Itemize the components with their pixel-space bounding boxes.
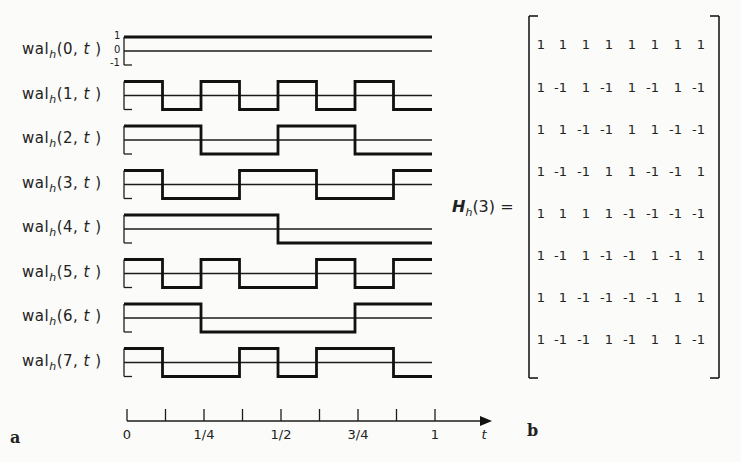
matrix-cell: 1	[658, 37, 682, 52]
matrix-cell: 1	[589, 206, 613, 221]
matrix-cell: -1	[635, 290, 659, 305]
matrix-cell: -1	[681, 206, 705, 221]
matrix-cell: 1	[681, 248, 705, 263]
matrix-cell: -1	[543, 80, 567, 95]
matrix-cell: 1	[521, 164, 545, 179]
matrix-cell: 1	[566, 37, 590, 52]
matrix-cell: 1	[521, 37, 545, 52]
matrix-cell: 1	[635, 122, 659, 137]
matrix-cell: -1	[566, 122, 590, 137]
matrix-cell: -1	[658, 206, 682, 221]
matrix-cell: 1	[589, 164, 613, 179]
matrix-cell: 1	[521, 248, 545, 263]
matrix-cell: -1	[543, 332, 567, 347]
matrix-cell: 1	[543, 122, 567, 137]
matrix-cell: -1	[589, 290, 613, 305]
matrix-cell: -1	[635, 164, 659, 179]
matrix-cell: -1	[635, 80, 659, 95]
matrix-cell: 1	[521, 206, 545, 221]
panel-label-a: a	[10, 428, 20, 447]
matrix-cell: -1	[589, 248, 613, 263]
matrix-cell: 1	[681, 37, 705, 52]
matrix-cell: -1	[658, 164, 682, 179]
matrix-cell: -1	[612, 248, 636, 263]
matrix-cell: -1	[612, 206, 636, 221]
panel-label-b: b	[527, 421, 538, 440]
matrix-cell: -1	[681, 80, 705, 95]
matrix-cell: 1	[521, 332, 545, 347]
time-tick-label: 1/2	[271, 427, 292, 442]
matrix-cell: 1	[612, 80, 636, 95]
matrix-cell: -1	[681, 332, 705, 347]
matrix-cell: 1	[543, 290, 567, 305]
matrix-cell: 1	[612, 122, 636, 137]
matrix-cell: 1	[543, 206, 567, 221]
matrix-cell: 1	[681, 290, 705, 305]
matrix-cell: 1	[566, 80, 590, 95]
matrix-cell: -1	[612, 332, 636, 347]
matrix-cell: -1	[635, 206, 659, 221]
matrix-cell: 1	[521, 122, 545, 137]
matrix-cell: -1	[543, 164, 567, 179]
matrix-cell: 1	[521, 80, 545, 95]
matrix-cell: 1	[612, 164, 636, 179]
time-axis-arrow-icon	[480, 416, 492, 426]
matrix-cell: 1	[543, 37, 567, 52]
matrix-cell: -1	[658, 122, 682, 137]
matrix-cell: 1	[635, 248, 659, 263]
matrix-cell: 1	[635, 332, 659, 347]
time-tick-label: 1	[431, 427, 439, 442]
matrix-cell: -1	[612, 290, 636, 305]
matrix-cell: -1	[566, 290, 590, 305]
matrix-cell: -1	[543, 248, 567, 263]
matrix-cell: -1	[681, 122, 705, 137]
walsh-waveform-plot	[0, 0, 741, 462]
matrix-cell: 1	[521, 290, 545, 305]
matrix-cell: -1	[589, 80, 613, 95]
matrix-cell: 1	[658, 290, 682, 305]
matrix-cell: 1	[566, 206, 590, 221]
time-axis-label: t	[481, 427, 486, 442]
matrix-cell: 1	[658, 80, 682, 95]
matrix-cell: 1	[658, 332, 682, 347]
time-tick-label: 1/4	[194, 427, 215, 442]
matrix-cell: 1	[589, 332, 613, 347]
matrix-cell: 1	[681, 164, 705, 179]
hadamard-matrix-label: Hh(3) =	[452, 197, 514, 219]
matrix-cell: 1	[635, 37, 659, 52]
matrix-cell: 1	[589, 37, 613, 52]
matrix-cell: -1	[658, 248, 682, 263]
matrix-arg: (3) =	[472, 197, 513, 216]
matrix-cell: -1	[566, 164, 590, 179]
matrix-symbol: H	[452, 197, 465, 216]
time-tick-label: 0	[123, 427, 131, 442]
matrix-cell: 1	[612, 37, 636, 52]
time-tick-label: 3/4	[348, 427, 369, 442]
matrix-cell: 1	[566, 248, 590, 263]
matrix-cell: -1	[589, 122, 613, 137]
matrix-cell: -1	[566, 332, 590, 347]
